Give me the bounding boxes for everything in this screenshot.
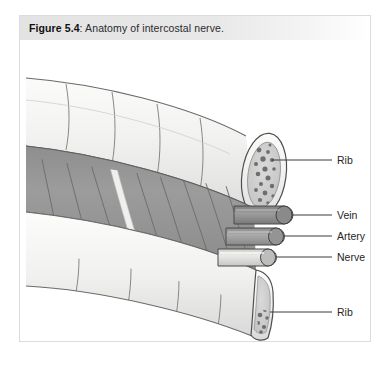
figure-caption-bar: Figure 5.4: Anatomy of intercostal nerve… [20, 16, 370, 40]
artery-structure [226, 228, 285, 245]
figure-container: Figure 5.4: Anatomy of intercostal nerve… [19, 15, 371, 342]
label-nerve: Nerve [337, 251, 365, 263]
nerve-lumen [261, 249, 276, 266]
vein-lumen [276, 206, 292, 224]
figure-illustration: Rib Vein Artery Nerve Rib [20, 40, 370, 342]
figure-number: Figure 5.4 [29, 22, 80, 34]
figure-caption: Figure 5.4: Anatomy of intercostal nerve… [29, 22, 224, 34]
vein-structure [234, 206, 293, 224]
artery-lumen [269, 228, 284, 245]
intercostal-anatomy-drawing: Rib Vein Artery Nerve Rib [20, 40, 372, 342]
nerve-structure [218, 249, 277, 266]
figure-labels: Rib Vein Artery Nerve Rib [337, 154, 366, 318]
label-artery: Artery [337, 230, 366, 242]
figure-caption-separator: : [80, 22, 83, 34]
figure-caption-title: Anatomy of intercostal nerve. [85, 22, 224, 34]
label-rib-upper: Rib [337, 154, 353, 166]
label-vein: Vein [337, 209, 358, 221]
label-rib-lower: Rib [337, 306, 353, 318]
